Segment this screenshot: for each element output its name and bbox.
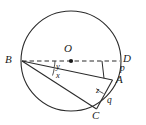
point-label-o: O bbox=[64, 43, 72, 54]
angle-label-x: x bbox=[56, 71, 60, 80]
arc-label-q: q bbox=[107, 96, 112, 106]
arc-label-p: p bbox=[120, 64, 125, 74]
point-label-a: A bbox=[116, 74, 123, 85]
chord-ba-line bbox=[22, 61, 113, 80]
geometry-figure: B O D A C y x z p q bbox=[0, 0, 146, 125]
point-label-b: B bbox=[5, 54, 12, 65]
point-label-c: C bbox=[92, 110, 99, 121]
perpendicular-line bbox=[102, 61, 104, 78]
angle-arc-y bbox=[54, 61, 55, 67]
angle-arc-x bbox=[53, 69, 55, 76]
angle-label-z: z bbox=[96, 86, 99, 95]
center-point-dot bbox=[69, 59, 73, 63]
